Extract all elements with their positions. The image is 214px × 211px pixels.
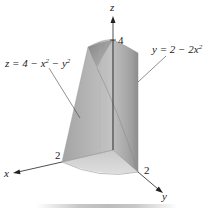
x-axis-label: x xyxy=(4,168,9,179)
x-axis xyxy=(18,162,62,172)
z-axis-tick-4: 4 xyxy=(118,35,124,46)
y-axis-tick-2: 2 xyxy=(144,165,150,176)
solid-region-diagram xyxy=(0,0,214,211)
z-axis-label: z xyxy=(110,2,114,13)
cylinder-equation: y = 2 − 2x2 xyxy=(152,44,202,55)
cylinder-leader xyxy=(138,56,166,82)
paraboloid-leader xyxy=(49,68,80,118)
cylinder-surface xyxy=(113,40,138,172)
x-axis-arrow-icon xyxy=(13,170,21,175)
z-axis-arrow-icon xyxy=(111,16,116,23)
paraboloid-equation: z = 4 − x2 − y2 xyxy=(5,58,70,69)
y-axis-label: y xyxy=(162,191,167,202)
bottom-shadow-divider xyxy=(36,204,178,208)
x-axis-tick-2: 2 xyxy=(55,150,61,161)
